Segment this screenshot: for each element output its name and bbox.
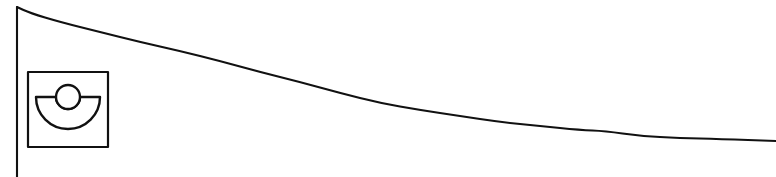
circle-bump-shape [56,85,80,109]
figure-canvas [0,0,776,177]
dome-glyph-icon[interactable] [28,72,108,147]
line-drawing-figure [0,0,776,177]
decay-curve-line [17,7,776,141]
